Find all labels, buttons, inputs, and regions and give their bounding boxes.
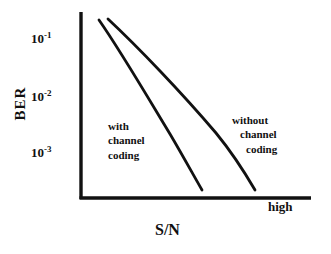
annotation-line-3: coding — [232, 142, 277, 156]
y-tick-mantissa: 10 — [31, 31, 44, 46]
x-axis-end-label-high: high — [268, 200, 293, 213]
y-tick-label-1e-3: 10-3 — [31, 146, 52, 159]
annotation-line-2: channel — [108, 133, 145, 147]
x-axis-title: S/N — [155, 222, 180, 238]
y-tick-exponent: -3 — [44, 144, 52, 154]
y-tick-exponent: -2 — [44, 88, 52, 98]
ber-vs-snr-chart: 10-1 10-2 10-3 BER S/N high with channel… — [0, 0, 331, 254]
annotation-line-3: coding — [108, 148, 145, 162]
annotation-line-1: without — [232, 113, 277, 127]
annotation-with-channel-coding: with channel coding — [108, 119, 145, 162]
y-tick-mantissa: 10 — [31, 145, 44, 160]
y-tick-exponent: -1 — [44, 30, 52, 40]
y-tick-label-1e-1: 10-1 — [31, 32, 52, 45]
curve-with-channel-coding — [99, 20, 202, 190]
y-axis-title: BER — [13, 74, 28, 134]
y-tick-mantissa: 10 — [31, 89, 44, 104]
curve-without-channel-coding — [108, 19, 255, 190]
annotation-line-2: channel — [232, 127, 277, 141]
annotation-without-channel-coding: without channel coding — [232, 113, 277, 156]
y-tick-label-1e-2: 10-2 — [31, 90, 52, 103]
annotation-line-1: with — [108, 119, 145, 133]
